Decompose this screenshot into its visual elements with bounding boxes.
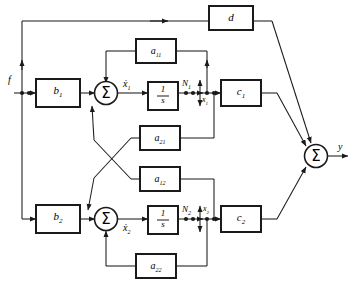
- block-label-c2: c2: [221, 211, 261, 226]
- dot-f-split: [20, 91, 24, 95]
- summer-circles: [95, 82, 328, 231]
- signal-label-f: f: [8, 74, 11, 85]
- dot-n1-b: [191, 91, 195, 95]
- signal-label-x2: x2: [203, 204, 209, 215]
- wire-a12-diagonal: [94, 140, 131, 179]
- dot-n2-d: [212, 217, 216, 221]
- dot-n1-a: [184, 91, 188, 95]
- block-label-b2: b2: [36, 210, 80, 225]
- block-label-int1: 1 s: [148, 84, 178, 106]
- dot-n2-c: [205, 217, 209, 221]
- block-label-a12: a12: [140, 173, 180, 186]
- summer-label-2: Σ: [96, 210, 116, 228]
- signal-label-xdot1: ẋ1: [123, 78, 130, 91]
- int2-denominator: s: [161, 219, 165, 229]
- dot-f-in: [27, 91, 31, 95]
- signal-label-xdot2: ẋ2: [123, 222, 130, 235]
- int1-denominator: s: [161, 95, 165, 105]
- dot-n2-b: [191, 217, 195, 221]
- block-diagram-canvas: b1 b2 a11 a21 a12 a22 1 s 1 s c1 c2 d Σ …: [0, 0, 355, 289]
- block-label-b1: b1: [36, 84, 80, 99]
- wire-a21-to-sum2: [88, 178, 94, 210]
- fraction-bars: [157, 96, 169, 220]
- summer-label-1: Σ: [96, 84, 116, 102]
- int2-numerator: 1: [161, 208, 166, 218]
- signal-label-x1: x1: [202, 95, 208, 106]
- block-label-int2: 1 s: [148, 208, 178, 230]
- junction-dots: [20, 91, 216, 221]
- int1-numerator: 1: [161, 84, 166, 94]
- signal-label-y: y: [338, 141, 342, 152]
- block-label-d: d: [209, 11, 253, 23]
- wire-d-to-sumy: [272, 21, 311, 143]
- summer-label-output: Σ: [306, 147, 326, 165]
- wire-a12-to-sum1: [92, 106, 94, 140]
- block-label-a21: a21: [140, 132, 180, 145]
- block-label-a11: a11: [136, 45, 176, 58]
- wire-c1-to-sumy: [277, 93, 306, 146]
- wire-a21-diagonal: [94, 138, 131, 178]
- signal-label-N1: N1: [182, 78, 191, 90]
- wire-c2-to-sumy: [277, 167, 306, 219]
- dot-n1-d: [212, 91, 216, 95]
- signal-label-N2: N2: [182, 204, 191, 216]
- block-label-a22: a22: [136, 260, 176, 273]
- dot-n2-a: [184, 217, 188, 221]
- block-label-c1: c1: [221, 85, 261, 100]
